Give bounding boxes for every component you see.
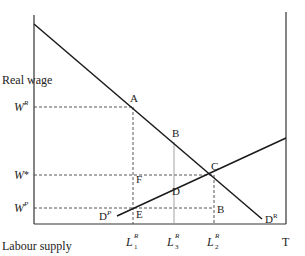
demand-rich-curve xyxy=(34,24,262,219)
labour-market-diagram: Real wage Labour supply T W R W * W P L … xyxy=(0,0,305,256)
svg-text:P: P xyxy=(23,200,29,208)
labour-label-l1r: L R 1 xyxy=(125,232,139,251)
point-d-label: D xyxy=(172,185,180,197)
diagram-canvas: Real wage Labour supply T W R W * W P L … xyxy=(0,0,305,256)
svg-text:R: R xyxy=(23,99,29,107)
svg-text:2: 2 xyxy=(215,243,219,251)
svg-text:R: R xyxy=(174,232,180,240)
y-axis-label: Real wage xyxy=(2,73,52,87)
svg-text:R: R xyxy=(214,232,220,240)
point-c-label: C xyxy=(211,160,218,172)
labour-label-l3r: L R 3 xyxy=(166,232,180,251)
wage-label-wr: W R xyxy=(14,99,29,114)
svg-text:*: * xyxy=(24,169,29,180)
svg-text:R: R xyxy=(273,212,278,220)
point-a-label: A xyxy=(130,92,138,104)
point-e-label: E xyxy=(136,208,143,220)
curve-label-dr: D R xyxy=(265,212,278,225)
svg-text:D: D xyxy=(99,210,107,222)
svg-text:1: 1 xyxy=(134,243,138,251)
svg-text:L: L xyxy=(166,235,174,249)
x-axis-label: Labour supply xyxy=(2,239,72,253)
point-b-lower-label: B xyxy=(217,203,224,215)
svg-text:P: P xyxy=(106,209,112,217)
point-f-label: F xyxy=(136,173,142,185)
point-b-upper-label: B xyxy=(172,127,179,139)
demand-poor-curve xyxy=(117,138,286,216)
svg-text:3: 3 xyxy=(175,243,179,251)
wage-label-wp: W P xyxy=(14,200,29,215)
curve-label-dp: D P xyxy=(99,209,112,222)
svg-text:L: L xyxy=(206,235,214,249)
svg-text:R: R xyxy=(133,232,139,240)
wage-label-wstar: W * xyxy=(14,168,29,182)
svg-text:D: D xyxy=(265,213,273,225)
labour-label-l2r: L R 2 xyxy=(206,232,220,251)
svg-text:L: L xyxy=(125,235,133,249)
right-end-label: T xyxy=(282,235,290,249)
